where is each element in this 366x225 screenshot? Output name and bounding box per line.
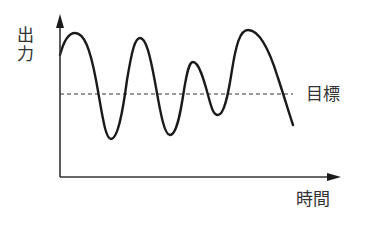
y-axis-label: 出力	[12, 26, 32, 64]
output-curve	[60, 30, 293, 139]
x-axis-arrow-icon	[327, 173, 341, 181]
x-axis-label: 時間	[296, 191, 330, 208]
y-axis-arrow-icon	[56, 14, 64, 28]
target-label: 目標	[306, 86, 340, 103]
output-vs-target-diagram: 出力 目標 時間	[0, 0, 366, 225]
